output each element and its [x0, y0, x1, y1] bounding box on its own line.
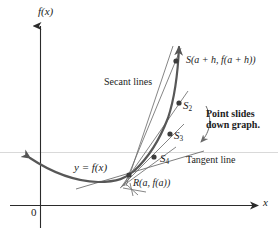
x-axis-label: x [263, 196, 268, 208]
point-marker-R [126, 172, 131, 177]
curve-equation-label: y = f(x) [74, 161, 107, 173]
point-label-S2: S2 [183, 99, 192, 113]
point-label-S: S(a + h, f(a + h)) [186, 54, 256, 65]
y-axis-label: f(x) [38, 5, 53, 17]
origin-label: 0 [31, 206, 37, 218]
point-marker-S3 [167, 131, 172, 136]
point-label-S3-subscript: 3 [180, 135, 184, 143]
secant-tangent-figure: f(x) x 0 y = f(x) Secant lines S(a + h, … [0, 0, 278, 233]
point-label-S3: S3 [174, 129, 183, 143]
tangent-line-label: Tangent line [186, 154, 236, 165]
point-label-R: R(a, f(a)) [133, 177, 170, 188]
slides-down-annotation-line2: down graph. [206, 119, 260, 130]
point-marker-S [173, 58, 178, 63]
point-label-S4-subscript: 4 [166, 158, 170, 166]
point-marker-S4 [151, 154, 156, 159]
secant-lines-label: Secant lines [104, 76, 152, 87]
point-label-S4: S4 [160, 152, 169, 166]
slides-down-annotation: Point slides down graph. [206, 108, 260, 130]
point-marker-S2 [176, 100, 181, 105]
slides-down-annotation-line1: Point slides [206, 108, 260, 119]
point-label-S2-subscript: 2 [189, 105, 193, 113]
